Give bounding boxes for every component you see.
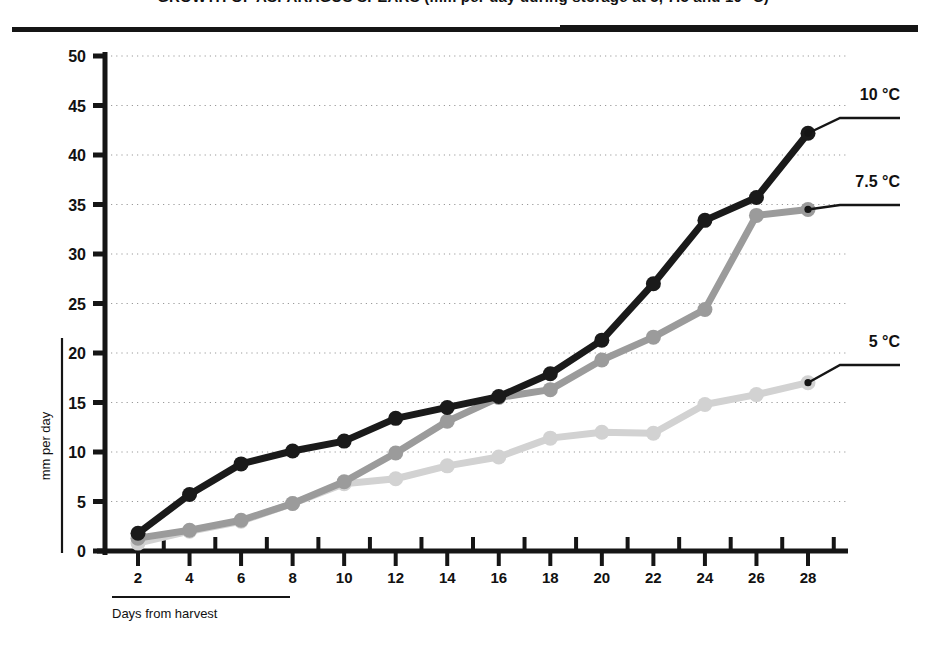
data-point [182, 523, 197, 538]
data-point [749, 208, 764, 223]
x-tick-label: 2 [134, 569, 142, 586]
series-7.5c [131, 202, 816, 546]
data-point [234, 513, 249, 528]
data-series-layer [131, 126, 816, 551]
leader-anchor-dot [804, 130, 811, 137]
data-point [285, 444, 300, 459]
data-point [388, 445, 403, 460]
data-point [594, 333, 609, 348]
x-axis-title: Days from harvest [112, 606, 218, 621]
data-point [337, 474, 352, 489]
leader-anchor-dot [804, 206, 811, 213]
x-tick-label: 6 [237, 569, 245, 586]
series-labels: 10 °C7.5 °C5 °C [855, 86, 900, 350]
y-tick-label: 5 [77, 494, 86, 511]
data-point [440, 458, 455, 473]
y-tick-label: 30 [68, 246, 86, 263]
leader-line [808, 365, 900, 383]
series-label: 10 °C [860, 86, 901, 103]
gridlines [111, 56, 848, 502]
data-point [697, 213, 712, 228]
x-tick-label: 10 [336, 569, 353, 586]
x-tick-label: 4 [185, 569, 194, 586]
y-axis-tick-labels: 05101520253035404550 [68, 48, 86, 560]
data-point [646, 276, 661, 291]
x-tick-label: 18 [542, 569, 559, 586]
series-line [138, 133, 808, 533]
line-chart: 05101520253035404550 2468101214161820222… [0, 0, 926, 645]
leader-line [808, 205, 900, 209]
data-point [388, 471, 403, 486]
data-point [646, 330, 661, 345]
x-tick-label: 24 [697, 569, 714, 586]
data-point [594, 425, 609, 440]
series-line [138, 209, 808, 538]
data-point [285, 496, 300, 511]
data-point [491, 389, 506, 404]
x-tick-label: 26 [748, 569, 765, 586]
data-point [131, 526, 146, 541]
y-tick-label: 20 [68, 345, 86, 362]
leader-line [808, 118, 900, 133]
y-tick-label: 45 [68, 98, 86, 115]
y-tick-label: 50 [68, 48, 86, 65]
data-point [697, 302, 712, 317]
chart-canvas: 05101520253035404550 2468101214161820222… [0, 0, 926, 645]
series-label: 7.5 °C [855, 173, 900, 190]
data-point [182, 487, 197, 502]
data-point [697, 397, 712, 412]
y-axis-title: mm per day [38, 411, 53, 480]
data-point [594, 352, 609, 367]
data-point [646, 426, 661, 441]
data-point [440, 400, 455, 415]
y-tick-label: 40 [68, 147, 86, 164]
leader-anchor-dot [804, 379, 811, 386]
x-tick-label: 28 [800, 569, 817, 586]
data-point [543, 431, 558, 446]
series-label: 5 °C [869, 333, 901, 350]
data-point [749, 190, 764, 205]
data-point [388, 411, 403, 426]
data-point [491, 449, 506, 464]
chart-page: GROWTH OF ASPARAGUS SPEARS (mm per day d… [0, 0, 926, 645]
y-tick-label: 15 [68, 395, 86, 412]
x-tick-label: 16 [490, 569, 507, 586]
data-point [337, 434, 352, 449]
data-point [440, 414, 455, 429]
data-point [543, 366, 558, 381]
x-tick-label: 20 [594, 569, 611, 586]
y-tick-label: 35 [68, 197, 86, 214]
series-10c [131, 126, 816, 541]
axis-titles: mm per dayDays from harvest [38, 338, 290, 621]
data-point [543, 382, 558, 397]
data-point [234, 456, 249, 471]
x-tick-label: 8 [288, 569, 296, 586]
y-tick-label: 10 [68, 444, 86, 461]
y-tick-label: 25 [68, 296, 86, 313]
y-tick-label: 0 [77, 543, 86, 560]
x-axis-tick-labels: 246810121416182022242628 [134, 569, 817, 586]
x-tick-label: 12 [387, 569, 404, 586]
x-tick-label: 22 [645, 569, 662, 586]
x-tick-label: 14 [439, 569, 456, 586]
data-point [749, 387, 764, 402]
